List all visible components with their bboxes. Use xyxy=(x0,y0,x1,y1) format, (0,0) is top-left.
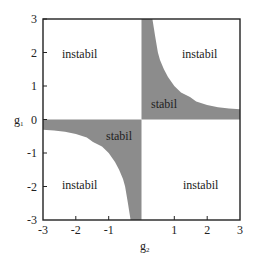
region-label-unstable-q3: instabil xyxy=(62,178,98,192)
region-label-unstable-q4: instabil xyxy=(183,178,219,192)
x-tick-label: 2 xyxy=(204,223,210,237)
region-label-stable-q3: stabil xyxy=(106,129,133,143)
region-label-unstable-q2: instabil xyxy=(62,47,98,61)
y-tick-label: 1 xyxy=(31,79,37,93)
region-label-unstable-q1: instabil xyxy=(182,47,218,61)
x-tick-label: -1 xyxy=(104,223,114,237)
region-label-stable-q1: stabil xyxy=(151,97,178,111)
y-axis-label: g1 xyxy=(14,113,24,128)
x-tick-label: 3 xyxy=(237,223,243,237)
y-tick-label: -1 xyxy=(27,146,37,160)
y-tick-label: 0 xyxy=(31,113,37,127)
x-tick-label: -2 xyxy=(71,223,81,237)
x-tick-label: 1 xyxy=(171,223,177,237)
y-tick-label: -3 xyxy=(27,213,37,227)
x-axis-label: g2 xyxy=(140,239,150,254)
y-tick-label: 3 xyxy=(31,12,37,26)
stability-chart: 3 2 1 0 -1 -2 -3 -3 -2 -1 1 2 3 g1 g2 in… xyxy=(0,0,254,257)
y-tick-label: -2 xyxy=(27,180,37,194)
y-tick-label: 2 xyxy=(31,46,37,60)
x-tick-label: -3 xyxy=(38,223,48,237)
